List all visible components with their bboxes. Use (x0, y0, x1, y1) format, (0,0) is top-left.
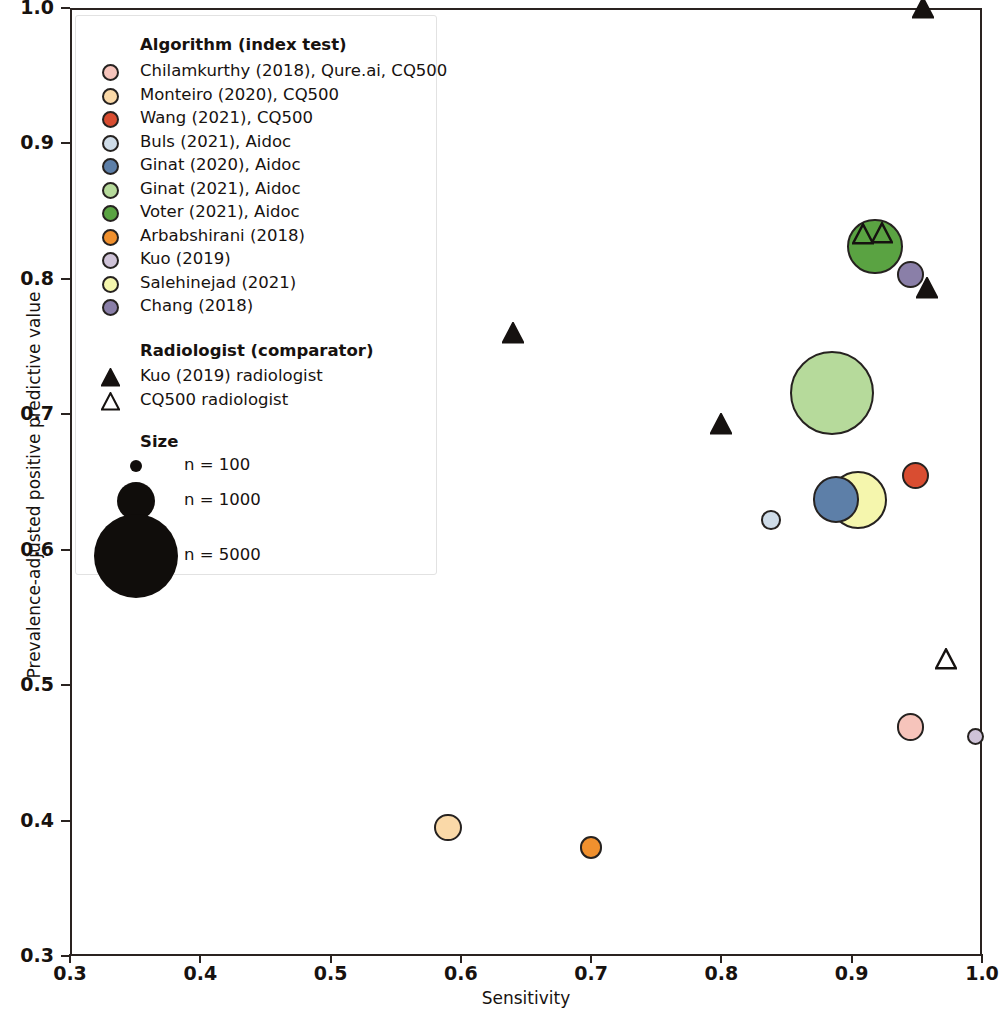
data-point-circle (580, 836, 603, 859)
legend-item-label: CQ500 radiologist (140, 390, 288, 409)
y-tick-label: 1.0 (2, 0, 54, 18)
legend-size-bubble (130, 460, 142, 472)
legend-item-label: Kuo (2019) radiologist (140, 366, 323, 385)
legend-item-radiologist[interactable]: CQ500 radiologist (76, 390, 438, 413)
legend-item-label: Monteiro (2020), CQ500 (140, 85, 339, 104)
x-axis-title: Sensitivity (70, 988, 982, 1008)
x-tick-label: 0.8 (691, 962, 751, 984)
legend-item-label: Ginat (2020), Aidoc (140, 155, 301, 174)
data-point-open-triangle (935, 648, 957, 674)
legend-color-swatch (102, 276, 119, 293)
legend-color-swatch (102, 229, 119, 246)
legend-item-algorithm[interactable]: Wang (2021), CQ500 (76, 108, 438, 131)
x-tick-label: 1.0 (952, 962, 1008, 984)
y-tick-mark (61, 684, 70, 686)
legend-item-label: Chilamkurthy (2018), Qure.ai, CQ500 (140, 61, 447, 80)
legend-color-swatch (102, 88, 119, 105)
x-tick-label: 0.7 (561, 962, 621, 984)
data-point-open-triangle (871, 222, 893, 248)
y-tick-mark (61, 142, 70, 144)
y-tick-mark (61, 278, 70, 280)
legend-size-bubble (94, 514, 178, 598)
legend-item-label: Chang (2018) (140, 296, 253, 315)
x-tick-label: 0.3 (40, 962, 100, 984)
legend-title-radiologist: Radiologist (comparator) (140, 341, 374, 360)
legend-color-swatch (102, 64, 119, 81)
filled-triangle-icon (101, 368, 120, 391)
legend-title-algorithm: Algorithm (index test) (140, 35, 347, 54)
data-point-filled-triangle (502, 322, 524, 348)
data-point-circle (967, 728, 984, 745)
legend-item-label: Wang (2021), CQ500 (140, 108, 313, 127)
legend-item-algorithm[interactable]: Kuo (2019) (76, 249, 438, 272)
legend-color-swatch (102, 111, 119, 128)
data-point-circle (897, 713, 924, 740)
y-tick-mark (61, 820, 70, 822)
legend-item-algorithm[interactable]: Ginat (2021), Aidoc (76, 179, 438, 202)
legend-item-algorithm[interactable]: Voter (2021), Aidoc (76, 202, 438, 225)
y-tick-mark (61, 549, 70, 551)
data-point-circle (902, 462, 929, 489)
data-point-circle (790, 351, 874, 435)
legend-item-algorithm[interactable]: Monteiro (2020), CQ500 (76, 85, 438, 108)
data-point-circle (813, 476, 859, 522)
legend-item-radiologist[interactable]: Kuo (2019) radiologist (76, 366, 438, 389)
legend-item-label: Voter (2021), Aidoc (140, 202, 300, 221)
legend-color-swatch (102, 252, 119, 269)
legend-color-swatch (102, 205, 119, 222)
legend-color-swatch (102, 158, 119, 175)
y-tick-mark (61, 413, 70, 415)
x-tick-label: 0.5 (301, 962, 361, 984)
legend-title-size: Size (140, 432, 178, 451)
legend-color-swatch (102, 182, 119, 199)
legend-item-label: Salehinejad (2021) (140, 273, 296, 292)
legend-item-algorithm[interactable]: Ginat (2020), Aidoc (76, 155, 438, 178)
y-axis-title: Prevalence-adjusted positive predictive … (24, 135, 44, 835)
legend-item-algorithm[interactable]: Salehinejad (2021) (76, 273, 438, 296)
legend-color-swatch (102, 135, 119, 152)
x-tick-label: 0.6 (431, 962, 491, 984)
legend-item-algorithm[interactable]: Buls (2021), Aidoc (76, 132, 438, 155)
legend-item-algorithm[interactable]: Arbabshirani (2018) (76, 226, 438, 249)
chart-legend: Algorithm (index test) Chilamkurthy (201… (75, 15, 437, 575)
legend-item-algorithm[interactable]: Chilamkurthy (2018), Qure.ai, CQ500 (76, 61, 438, 84)
x-tick-label: 0.9 (822, 962, 882, 984)
data-point-filled-triangle (912, 0, 934, 23)
legend-size-label: n = 100 (184, 455, 250, 474)
legend-size-label: n = 1000 (184, 490, 261, 509)
open-triangle-icon (101, 392, 120, 415)
data-point-filled-triangle (710, 413, 732, 439)
scatter-plot-figure: 0.30.40.50.60.70.80.91.0 0.30.40.50.60.7… (0, 0, 1008, 1013)
legend-item-label: Buls (2021), Aidoc (140, 132, 291, 151)
data-point-circle (761, 510, 781, 530)
legend-item-label: Ginat (2021), Aidoc (140, 179, 301, 198)
legend-item-algorithm[interactable]: Chang (2018) (76, 296, 438, 319)
legend-color-swatch (102, 299, 119, 316)
legend-item-label: Arbabshirani (2018) (140, 226, 305, 245)
x-tick-label: 0.4 (170, 962, 230, 984)
data-point-circle (434, 814, 461, 841)
legend-item-label: Kuo (2019) (140, 249, 231, 268)
y-tick-mark (61, 7, 70, 9)
data-point-filled-triangle (916, 277, 938, 303)
legend-size-label: n = 5000 (184, 545, 261, 564)
